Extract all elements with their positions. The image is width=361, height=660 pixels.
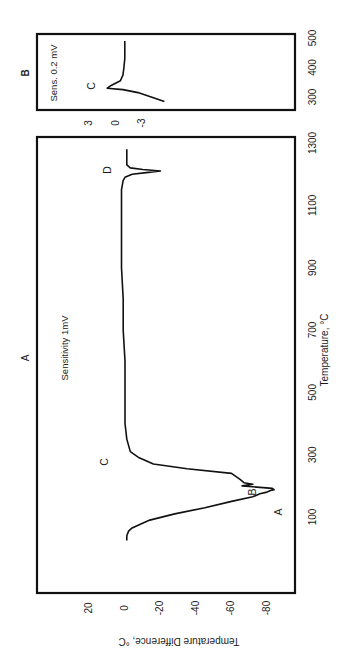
y-tick-label: -40 <box>190 600 201 615</box>
x-tick-label: 300 <box>307 446 318 463</box>
panel-a-sensitivity: Sensitivity 1mV <box>59 315 70 381</box>
dta-figure: B A Sens. 0.2 mV Sensitivity 1mV Tempera… <box>0 0 361 660</box>
y-tick-label: 3 <box>83 120 94 126</box>
panel-b-curve <box>107 41 164 101</box>
y-axis-label: Temperature Difference, °C <box>118 636 239 647</box>
panel-b-frame <box>37 34 295 110</box>
x-tick-label: 900 <box>307 259 318 276</box>
y-tick-label: -60 <box>225 600 236 615</box>
y-tick-label: -80 <box>261 600 272 615</box>
x-tick-label: 400 <box>307 59 318 76</box>
panel-a-frame <box>37 137 295 593</box>
peak-label-c: C <box>85 82 97 90</box>
panel-b-title: B <box>20 69 31 76</box>
x-tick-label: 300 <box>307 88 318 105</box>
peak-label-d: D <box>101 166 113 174</box>
x-axis-label: Temperature, °C <box>319 314 330 387</box>
y-tick-label: 0 <box>119 605 130 611</box>
x-tick-label: 1300 <box>307 131 318 154</box>
x-tick-label: 500 <box>307 384 318 401</box>
x-tick-label: 700 <box>307 321 318 338</box>
peak-label-c: C <box>98 458 110 466</box>
panel-b-sensitivity: Sens. 0.2 mV <box>48 44 59 102</box>
x-tick-label: 500 <box>307 29 318 46</box>
peak-label-a: A <box>272 508 284 515</box>
peak-label-b: B <box>246 488 258 495</box>
x-tick-label: 100 <box>307 508 318 525</box>
panel-a-title: A <box>20 354 31 361</box>
panel-a-curve <box>122 149 275 540</box>
y-tick-label: 0 <box>110 120 121 126</box>
y-tick-label: 20 <box>83 602 94 614</box>
x-tick-label: 1100 <box>307 194 318 216</box>
y-tick-label: -3 <box>136 118 147 127</box>
y-tick-label: -20 <box>154 600 165 615</box>
